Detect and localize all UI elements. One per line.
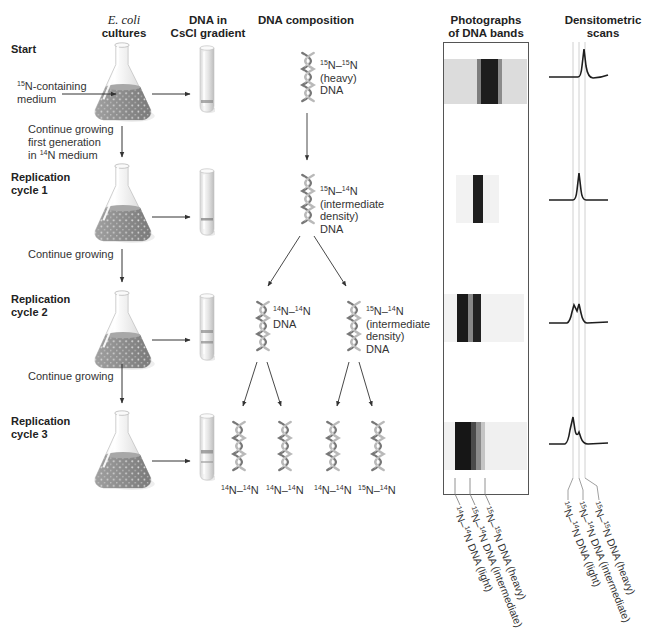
c3-1-end: N [251,484,259,496]
row-label-cycle2: Replication cycle 2 [11,293,70,319]
dna-label-cycle1-mid: N– [328,185,342,197]
dna-label-heavy: 15N–15N (heavy) DNA [320,59,358,97]
c3-2-sup1: 14 [266,484,274,491]
dna-label-cycle1-sup2: 14 [342,185,350,192]
dna-label-heavy-end: N [350,59,358,71]
header-cultures-line2: cultures [102,27,147,39]
dna-label-cycle3-1: 14N–14N [221,484,259,497]
c3-3-end: N [344,484,352,496]
header-photos: Photographs of DNA bands [438,14,534,40]
continue-note-1-line1: Continue growing [28,123,114,135]
photo-band-start [444,59,527,104]
header-cultures-line1: E. coli [108,13,141,27]
dna-label-heavy-line3: DNA [320,84,343,96]
continue-note-1: Continue growing first generation in 14N… [28,123,114,162]
c3-2-end: N [296,484,304,496]
row-label-cycle3-line2: cycle 3 [11,428,48,440]
dna-label-c2i-line2: (intermediate [366,318,430,330]
dna-label-c2i-sup1: 15 [366,305,374,312]
dna-label-c2l-sup2: 14 [295,305,303,312]
continue-note-1-line3-pre: in [28,149,40,161]
header-scans-line1: Densitometric [565,14,642,26]
row-label-cycle1-line2: cycle 1 [11,184,48,196]
c3-2-sup2: 14 [288,484,296,491]
header-composition: DNA composition [256,14,356,27]
tube-cycle2 [200,294,217,361]
dna-label-c2l-line2: DNA [273,318,296,330]
medium-note-sup: 15 [17,80,25,87]
dna-label-heavy-sup2: 15 [342,59,350,66]
dna-label-c2i-line3: density) [366,330,405,342]
c3-4-sup1: 15 [358,484,366,491]
dna-label-cycle2-light: 14N–14N DNA [273,305,311,330]
c3-3-sup2: 14 [336,484,344,491]
dna-label-c2i-end: N [396,305,404,317]
c3-2-mid: N– [274,484,288,496]
header-scans: Densitometric scans [560,14,646,40]
c3-3-sup1: 14 [314,484,322,491]
row-label-cycle2-line2: cycle 2 [11,306,48,318]
dna-label-c2i-line4: DNA [366,343,389,355]
photo-band-cycle1 [456,175,499,223]
continue-note-3: Continue growing [28,370,114,383]
header-cultures: E. coli cultures [92,14,156,40]
dna-label-cycle1-sup1: 15 [320,185,328,192]
medium-note-line2: medium [17,93,56,105]
row-label-cycle1: Replication cycle 1 [11,171,70,197]
dna-label-heavy-mid: N– [328,59,342,71]
dna-label-cycle2-intermediate: 15N–14N (intermediate density) DNA [366,305,430,355]
continue-note-2: Continue growing [28,248,114,261]
row-label-cycle3-line1: Replication [11,415,70,427]
header-gradient: DNA in CsCl gradient [170,14,246,40]
row-label-start: Start [11,43,36,56]
dna-label-c2l-mid: N– [281,305,295,317]
header-photos-line2: of DNA bands [448,27,524,39]
photo-band-cycle3 [444,422,527,470]
dna-label-c2l-sup1: 14 [273,305,281,312]
dna-label-cycle1-end: N [350,185,358,197]
tube-start [200,46,217,113]
scan-cycle3 [549,417,608,444]
c3-1-mid: N– [229,484,243,496]
row-label-cycle1-line1: Replication [11,171,70,183]
header-gradient-line2: CsCl gradient [171,27,246,39]
scan-cycle1 [549,173,608,200]
c3-1-sup2: 14 [243,484,251,491]
dna-label-cycle3-3: 14N–14N [314,484,352,497]
continue-note-1-line2: first generation [28,136,101,148]
medium-note-text: N-containing [25,80,87,92]
c3-1-sup1: 14 [221,484,229,491]
dna-label-c2i-mid: N– [374,305,388,317]
tube-cycle1 [200,169,217,236]
continue-note-1-line3-post: N medium [47,149,97,161]
dna-label-cycle1-line2: (intermediate [320,198,384,210]
dna-label-cycle1-line3: density) [320,210,359,222]
header-photos-line1: Photographs [451,14,522,26]
dna-label-c2l-end: N [303,305,311,317]
dna-label-cycle1: 15N–14N (intermediate density) DNA [320,185,384,235]
row-label-cycle2-line1: Replication [11,293,70,305]
tube-cycle3 [200,414,217,481]
dna-label-cycle3-4: 15N–14N [358,484,396,497]
header-scans-line2: scans [587,27,620,39]
dna-label-heavy-sup1: 15 [320,59,328,66]
c3-4-end: N [388,484,396,496]
c3-4-sup2: 14 [380,484,388,491]
medium-note: 15N-containing medium [17,80,87,106]
row-label-cycle3: Replication cycle 3 [11,415,70,441]
scan-start [549,49,608,78]
c3-3-mid: N– [322,484,336,496]
dna-label-c2i-sup2: 14 [388,305,396,312]
flask-cycle2 [95,291,155,370]
flask-cycle1 [95,164,155,243]
dna-label-cycle3-2: 14N–14N [266,484,304,497]
dna-label-heavy-line2: (heavy) [320,72,357,84]
dna-label-cycle1-line4: DNA [320,223,343,235]
scan-cycle2 [549,304,608,323]
photo-band-cycle2 [444,294,524,342]
c3-4-mid: N– [366,484,380,496]
flask-cycle3 [95,411,155,490]
header-gradient-line1: DNA in [189,14,227,26]
flask-start [95,43,155,122]
